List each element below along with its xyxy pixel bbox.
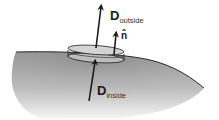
d-inside-subscript: inside bbox=[106, 91, 126, 100]
d-outside-subscript: outside bbox=[119, 16, 143, 25]
d-outside-label: Doutside bbox=[110, 7, 144, 23]
d-inside-label: Dinside bbox=[97, 82, 126, 98]
d-outside-arrow bbox=[96, 7, 101, 48]
d-inside-symbol: D bbox=[97, 83, 106, 98]
normal-label: n̂ bbox=[121, 31, 127, 41]
pillbox-diagram: Doutside n̂ Dinside bbox=[0, 0, 219, 120]
d-outside-symbol: D bbox=[110, 8, 119, 23]
